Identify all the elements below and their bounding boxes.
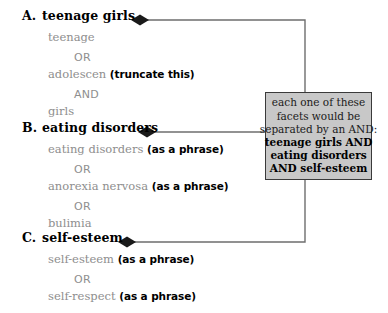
operator-row: OR: [48, 269, 270, 289]
facet-letter-c: C.: [22, 228, 42, 248]
callout-line: separated by an AND:: [260, 123, 377, 136]
operator-text: OR: [74, 163, 91, 176]
diagram-canvas: A.teenage girls teenage OR adolescen (tr…: [0, 0, 388, 313]
operator-text: OR: [74, 200, 91, 213]
operator-text: AND: [74, 88, 99, 101]
facet-title-a: teenage girls: [42, 8, 135, 23]
term-text: self-esteem: [48, 252, 118, 266]
term-text: self-respect: [48, 289, 119, 303]
operator-row: OR: [48, 47, 270, 67]
term-row: self-esteem (as a phrase): [48, 251, 270, 269]
callout-line: each one of these: [272, 96, 365, 109]
term-note: (as a phrase): [119, 290, 196, 302]
facet-heading-a: A.teenage girls: [0, 6, 270, 26]
callout-line: eating disorders: [270, 149, 366, 162]
term-text: eating disorders: [48, 142, 147, 156]
term-note: (as a phrase): [152, 180, 229, 192]
facet-terms-b: eating disorders (as a phrase) OR anorex…: [0, 138, 270, 233]
term-note: (as a phrase): [118, 253, 195, 265]
facet-title-c: self-esteem: [42, 230, 123, 245]
operator-row: OR: [48, 159, 270, 179]
operator-row: OR: [48, 196, 270, 216]
callout-line: facets would be: [277, 110, 361, 123]
term-row: self-respect (as a phrase): [48, 288, 270, 306]
term-text: adolescen: [48, 67, 110, 81]
facet-block-c: C.self-esteem self-esteem (as a phrase) …: [0, 228, 270, 306]
operator-row: AND: [48, 84, 270, 104]
term-text: girls: [48, 104, 74, 118]
callout-box: each one of these facets would be separa…: [265, 92, 372, 180]
term-text: teenage: [48, 30, 95, 44]
facet-title-b: eating disorders: [42, 120, 158, 135]
operator-text: OR: [74, 273, 91, 286]
callout-line: teenage girls AND: [265, 136, 373, 149]
facet-letter-a: A.: [22, 6, 42, 26]
term-row: teenage: [48, 29, 270, 47]
term-text: anorexia nervosa: [48, 179, 152, 193]
facet-heading-c: C.self-esteem: [0, 228, 270, 248]
term-row: eating disorders (as a phrase): [48, 141, 270, 159]
operator-text: OR: [74, 51, 91, 64]
facet-letter-b: B.: [22, 118, 42, 138]
facet-terms-a: teenage OR adolescen (truncate this) AND…: [0, 26, 270, 121]
facet-block-b: B.eating disorders eating disorders (as …: [0, 118, 270, 233]
facet-terms-c: self-esteem (as a phrase) OR self-respec…: [0, 248, 270, 306]
term-note: (as a phrase): [147, 143, 224, 155]
facet-heading-b: B.eating disorders: [0, 118, 270, 138]
term-row: adolescen (truncate this): [48, 66, 270, 84]
term-note: (truncate this): [110, 68, 195, 80]
facet-block-a: A.teenage girls teenage OR adolescen (tr…: [0, 6, 270, 121]
term-row: anorexia nervosa (as a phrase): [48, 178, 270, 196]
callout-line: AND self-esteem: [270, 162, 368, 175]
